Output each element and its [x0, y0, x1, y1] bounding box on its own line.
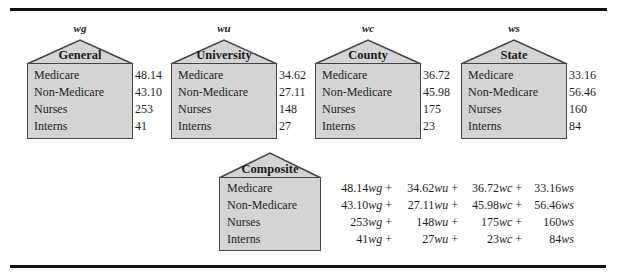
house-county: wc County Medicare Non-Medicare Nurses I… — [315, 22, 475, 142]
formula-term: 160ws — [522, 215, 574, 230]
row-label-medicare: Medicare — [34, 68, 79, 83]
house-title: County — [315, 48, 421, 63]
row-label-non-medicare: Non-Medicare — [227, 198, 297, 213]
formula-term: 41wg + — [327, 232, 392, 247]
formula-term: 33.16ws — [522, 181, 574, 196]
formula-term: 45.98wc + — [458, 198, 522, 213]
row-label-non-medicare: Non-Medicare — [178, 85, 248, 100]
row-label-nurses: Nurses — [227, 215, 260, 230]
formula-term: 27wu + — [392, 232, 458, 247]
formula-term: 148wu + — [392, 215, 458, 230]
row-value-non-medicare: 43.10 — [135, 85, 162, 100]
row-value-medicare: 36.72 — [423, 68, 450, 83]
row-value-nurses: 160 — [569, 102, 587, 117]
row-value-interns: 84 — [569, 119, 581, 134]
row-label-non-medicare: Non-Medicare — [34, 85, 104, 100]
row-label-interns: Interns — [322, 119, 355, 134]
house-title: State — [461, 48, 567, 63]
row-label-medicare: Medicare — [322, 68, 367, 83]
row-label-non-medicare: Non-Medicare — [322, 85, 392, 100]
row-label-nurses: Nurses — [34, 102, 67, 117]
formula-interns: 41wg + 27wu + 23wc + 84ws — [327, 232, 574, 247]
formula-medicare: 48.14wg + 34.62wu + 36.72wc + 33.16ws — [327, 181, 574, 196]
row-value-non-medicare: 45.98 — [423, 85, 450, 100]
row-value-nurses: 148 — [279, 102, 297, 117]
row-label-interns: Interns — [227, 232, 260, 247]
formula-term: 175wc + — [458, 215, 522, 230]
bottom-rule — [10, 265, 606, 268]
row-label-interns: Interns — [178, 119, 211, 134]
house-title: Composite — [219, 162, 321, 177]
formula-term: 56.46ws — [522, 198, 574, 213]
house-title: General — [27, 48, 133, 63]
top-rule — [10, 8, 607, 11]
row-label-medicare: Medicare — [468, 68, 513, 83]
formula-term: 34.62wu + — [392, 181, 458, 196]
row-value-nurses: 253 — [135, 102, 153, 117]
formula-term: 43.10wg + — [327, 198, 392, 213]
row-value-non-medicare: 27.11 — [279, 85, 306, 100]
row-label-nurses: Nurses — [322, 102, 355, 117]
formula-term: 36.72wc + — [458, 181, 522, 196]
row-value-medicare: 34.62 — [279, 68, 306, 83]
row-value-interns: 41 — [135, 119, 147, 134]
house-state: ws State Medicare Non-Medicare Nurses In… — [461, 22, 619, 142]
row-value-non-medicare: 56.46 — [569, 85, 596, 100]
formula-term: 27.11wu + — [392, 198, 458, 213]
row-label-nurses: Nurses — [178, 102, 211, 117]
row-value-nurses: 175 — [423, 102, 441, 117]
house-composite: Composite Medicare Non-Medicare Nurses I… — [219, 152, 619, 252]
formula-term: 84ws — [522, 232, 574, 247]
formula-term: 253wg + — [327, 215, 392, 230]
formula-term: 48.14wg + — [327, 181, 392, 196]
row-label-interns: Interns — [34, 119, 67, 134]
row-value-medicare: 48.14 — [135, 68, 162, 83]
row-value-interns: 23 — [423, 119, 435, 134]
row-value-medicare: 33.16 — [569, 68, 596, 83]
row-label-interns: Interns — [468, 119, 501, 134]
house-general: wg General Medicare Non-Medicare Nurses … — [27, 22, 187, 142]
row-value-interns: 27 — [279, 119, 291, 134]
house-title: University — [171, 48, 277, 63]
formula-non-medicare: 43.10wg + 27.11wu + 45.98wc + 56.46ws — [327, 198, 574, 213]
house-university: wu University Medicare Non-Medicare Nurs… — [171, 22, 331, 142]
row-label-medicare: Medicare — [227, 181, 272, 196]
row-label-nurses: Nurses — [468, 102, 501, 117]
row-label-non-medicare: Non-Medicare — [468, 85, 538, 100]
formula-term: 23wc + — [458, 232, 522, 247]
row-label-medicare: Medicare — [178, 68, 223, 83]
formula-nurses: 253wg + 148wu + 175wc + 160ws — [327, 215, 574, 230]
